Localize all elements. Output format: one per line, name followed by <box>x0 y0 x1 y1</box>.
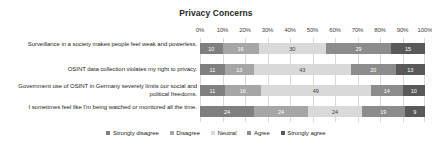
bar-segment[interactable]: 19 <box>362 106 405 117</box>
x-axis-tick-90: 90% <box>397 27 409 33</box>
legend-swatch-icon <box>281 131 285 135</box>
legend-item[interactable]: Disagree <box>170 130 200 136</box>
privacy-concerns-chart: Privacy Concerns 0%10%20%30%40%50%60%70%… <box>0 0 432 150</box>
legend-label: Disagree <box>176 130 200 136</box>
category-label: OSINT data collection violates my right … <box>4 66 197 74</box>
chart-title: Privacy Concerns <box>0 8 432 18</box>
x-axis-tick-100: 100% <box>418 27 432 33</box>
x-axis-tick-10: 10% <box>217 27 229 33</box>
x-axis-tick-60: 60% <box>329 27 341 33</box>
bar-segment[interactable]: 49 <box>261 85 371 96</box>
category-axis-labels: Surveillance in a society makes people f… <box>4 38 197 122</box>
legend-label: Neutral <box>217 130 236 136</box>
bar-segment[interactable]: 16 <box>225 85 261 96</box>
x-axis-tick-50: 50% <box>307 27 319 33</box>
x-axis-tick-0: 0% <box>196 27 204 33</box>
bar-row[interactable]: 1016302915 <box>200 43 425 54</box>
bar-segment[interactable]: 13 <box>225 64 254 75</box>
x-axis-tick-20: 20% <box>239 27 251 33</box>
legend-item[interactable]: Strongly disagree <box>106 130 158 136</box>
legend-item[interactable]: Neutral <box>211 130 237 136</box>
legend-swatch-icon <box>106 131 110 135</box>
x-axis-tick-40: 40% <box>284 27 296 33</box>
bar-segment[interactable]: 13 <box>396 64 425 75</box>
legend-swatch-icon <box>247 131 251 135</box>
bar-segment[interactable]: 30 <box>259 43 327 54</box>
stacked-bar-rows: 101630291511134320131116491410242424199 <box>200 38 425 122</box>
bar-segment[interactable]: 29 <box>326 43 391 54</box>
bar-segment[interactable]: 16 <box>223 43 259 54</box>
legend-label: Strongly disagree <box>113 130 159 136</box>
bar-row[interactable]: 1116491410 <box>200 85 425 96</box>
category-label: Surveillance in a society makes people f… <box>4 41 197 49</box>
plot-area: 101630291511134320131116491410242424199 <box>200 38 425 122</box>
bar-segment[interactable]: 24 <box>200 106 254 117</box>
bar-row[interactable]: 242424199 <box>200 106 425 117</box>
x-axis-tick-labels: 0%10%20%30%40%50%60%70%80%90%100% <box>200 27 425 37</box>
bar-segment[interactable]: 11 <box>200 85 225 96</box>
bar-segment[interactable]: 10 <box>403 85 426 96</box>
chart-legend: Strongly disagreeDisagreeNeutralAgreeStr… <box>0 130 432 136</box>
legend-item[interactable]: Strongly agree <box>281 130 326 136</box>
bar-segment[interactable]: 14 <box>371 85 403 96</box>
bar-segment[interactable]: 24 <box>308 106 362 117</box>
category-label: I sometimes feel like I'm being watched … <box>4 104 197 112</box>
bar-segment[interactable]: 9 <box>405 106 425 117</box>
bar-row[interactable]: 1113432013 <box>200 64 425 75</box>
x-axis-tick-30: 30% <box>262 27 274 33</box>
legend-item[interactable]: Agree <box>247 130 269 136</box>
bar-segment[interactable]: 10 <box>200 43 223 54</box>
legend-swatch-icon <box>170 131 174 135</box>
bar-segment[interactable]: 24 <box>254 106 308 117</box>
legend-swatch-icon <box>211 131 215 135</box>
x-axis-tick-70: 70% <box>352 27 364 33</box>
category-label: Government use of OSINT in Germany sever… <box>4 83 197 98</box>
bar-segment[interactable]: 11 <box>200 64 225 75</box>
x-axis-tick-80: 80% <box>374 27 386 33</box>
bar-segment[interactable]: 20 <box>351 64 396 75</box>
bar-segment[interactable]: 43 <box>254 64 351 75</box>
legend-label: Strongly agree <box>287 130 325 136</box>
legend-label: Agree <box>254 130 270 136</box>
bar-segment[interactable]: 15 <box>391 43 425 54</box>
